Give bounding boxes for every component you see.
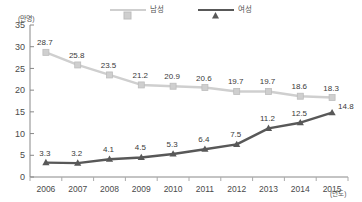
data-point-label: 11.2	[260, 114, 276, 123]
data-point-label: 4.5	[135, 143, 147, 152]
y-tick-label: 35	[15, 20, 25, 30]
y-tick-label: 30	[15, 42, 25, 52]
x-tick-label: 2012	[227, 184, 246, 194]
plot-area: 05101520253035 2006200720082009201020112…	[0, 0, 362, 202]
x-tick-label: 2007	[68, 184, 87, 194]
x-tick-label: 2006	[36, 184, 55, 194]
data-point-label: 20.6	[196, 74, 212, 83]
y-tick-label: 0	[20, 172, 25, 182]
data-point-marker	[170, 83, 176, 89]
x-axis-group: 2006200720082009201020112012201320142015	[30, 177, 348, 194]
data-point-label: 4.1	[103, 145, 115, 154]
data-point-label: 12.5	[292, 109, 308, 118]
data-point-marker	[202, 85, 208, 91]
y-tick-label: 25	[15, 64, 25, 74]
data-point-marker	[266, 88, 272, 94]
data-point-label: 3.3	[39, 149, 51, 158]
data-point-marker	[297, 93, 303, 99]
data-point-marker	[234, 88, 240, 94]
data-point-label: 18.6	[292, 82, 308, 91]
data-point-label: 21.2	[133, 71, 149, 80]
data-point-label: 19.7	[228, 77, 244, 86]
x-tick-label: 2015	[323, 184, 342, 194]
data-point-label: 25.8	[69, 51, 85, 60]
y-tick-label: 5	[20, 150, 25, 160]
series-line	[46, 52, 332, 97]
data-point-label: 3.2	[71, 149, 83, 158]
x-tick-label: 2008	[100, 184, 119, 194]
x-tick-label: 2011	[196, 184, 215, 194]
data-point-label: 7.5	[230, 130, 242, 139]
y-tick-label: 15	[15, 107, 25, 117]
x-tick-label: 2010	[164, 184, 183, 194]
data-point-label: 19.7	[260, 77, 276, 86]
series-female: 3.33.24.14.55.36.47.511.212.514.8	[39, 102, 354, 166]
data-point-marker	[43, 49, 49, 55]
series-line	[46, 113, 332, 163]
data-point-marker	[329, 95, 335, 101]
x-tick-label: 2009	[132, 184, 151, 194]
data-point-label: 28.7	[37, 38, 53, 47]
series-male: 28.725.823.521.220.920.619.719.718.618.3	[37, 38, 339, 100]
data-point-marker	[75, 62, 81, 68]
data-point-label: 23.5	[101, 61, 117, 70]
y-tick-label: 20	[15, 85, 25, 95]
data-point-label: 6.4	[198, 135, 210, 144]
data-point-marker	[138, 82, 144, 88]
data-point-marker	[107, 72, 113, 78]
line-chart: 남성 여성 (만명) (년도) 05101520253035 200620072…	[0, 0, 362, 202]
data-point-label: 18.3	[323, 84, 339, 93]
y-axis-group: 05101520253035	[15, 20, 34, 182]
series-group: 28.725.823.521.220.920.619.719.718.618.3…	[37, 38, 354, 165]
data-point-label: 14.8	[338, 102, 354, 111]
y-tick-label: 10	[15, 129, 25, 139]
x-tick-label: 2014	[291, 184, 310, 194]
x-tick-label: 2013	[259, 184, 278, 194]
data-point-label: 20.9	[164, 72, 180, 81]
data-point-label: 5.3	[167, 140, 179, 149]
data-point-marker	[329, 109, 336, 115]
